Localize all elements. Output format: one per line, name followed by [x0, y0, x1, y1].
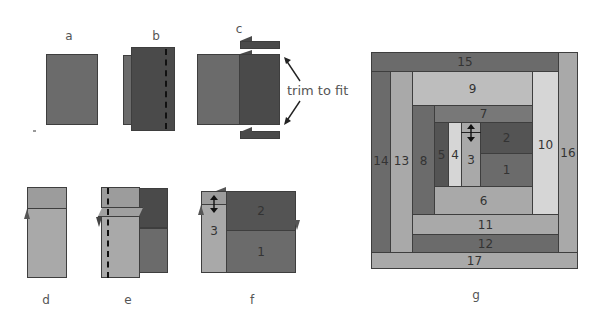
log-label-12: 12: [412, 234, 559, 253]
log-label-2: 2: [480, 122, 533, 154]
log-label-13: 13: [390, 148, 413, 173]
step-label-f: f: [245, 293, 259, 307]
log-label-9: 9: [412, 71, 533, 106]
arrow-icon-up: [282, 56, 304, 84]
fabric-piece-c-left: [197, 54, 241, 125]
seam-line-b: [165, 49, 167, 129]
log-label-15: 15: [371, 52, 559, 72]
log-label-8: 8: [412, 148, 435, 173]
seam-line-e: [107, 188, 109, 278]
trim-strip-bottom: [240, 131, 280, 139]
step-label-b: b: [149, 29, 163, 43]
trim-wedge-top: [240, 36, 252, 41]
log-label-7: 7: [434, 105, 533, 123]
stray-mark: [33, 130, 36, 132]
log-label-16: 16: [558, 140, 578, 165]
log-label-1: 1: [480, 153, 533, 187]
log-label-17: 17: [371, 252, 578, 269]
piece-label-1-f: 1: [226, 230, 296, 273]
step-label-c: c: [232, 22, 246, 36]
log-label-4: 4: [448, 145, 462, 165]
step-label-g: g: [469, 288, 483, 302]
fold-wedge-f-right: [294, 220, 300, 230]
fold-band-e: [98, 207, 144, 217]
log-label-5: 5: [434, 145, 449, 165]
fold-wedge-f-top: [216, 187, 226, 191]
piece-label-3-f: 3: [201, 220, 227, 242]
fabric-piece-c-right: [239, 54, 280, 125]
trim-strip-top: [240, 41, 280, 49]
log-label-11: 11: [412, 214, 559, 235]
fold-wedge-f-left: [198, 205, 204, 215]
fabric-piece-e-dark-bottom: [137, 228, 168, 273]
fabric-piece-b-top: [131, 47, 175, 131]
log-label-14: 14: [371, 148, 391, 173]
log-label-3: 3: [461, 150, 481, 170]
arrow-icon-down: [282, 98, 304, 126]
log-label-6: 6: [434, 186, 533, 215]
fabric-piece-d-bottom: [27, 208, 67, 278]
double-arrow-icon-f: [209, 195, 219, 213]
trim-wedge-bottom: [240, 127, 252, 132]
step-label-a: a: [62, 29, 76, 43]
trim-wedge-mid: [240, 50, 252, 54]
fold-wedge-d: [24, 209, 30, 219]
fabric-piece-a: [46, 54, 98, 125]
step-label-d: d: [39, 293, 53, 307]
trim-to-fit-label: trim to fit: [287, 83, 357, 98]
step-label-e: e: [121, 293, 135, 307]
piece-label-2-f: 2: [226, 191, 296, 231]
double-arrow-icon-g: [466, 124, 476, 142]
fold-wedge-e: [96, 217, 102, 227]
log-label-10: 10: [532, 132, 559, 157]
fabric-piece-d-top: [27, 187, 67, 209]
